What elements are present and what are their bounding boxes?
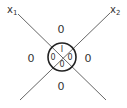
inner-region-left: 0 [50, 54, 55, 62]
outer-region-right: 0 [85, 53, 92, 64]
inner-region-top: I [61, 46, 63, 54]
x2-label-subscript: 2 [116, 9, 120, 17]
outer-region-top: 0 [58, 24, 65, 35]
outer-region-left: 0 [28, 53, 35, 64]
x1-axis-label: x1 [7, 5, 17, 17]
outer-region-bottom: 0 [58, 81, 65, 92]
inner-region-bottom: 0 [59, 61, 64, 69]
x1-label-subscript: 1 [13, 9, 17, 17]
x2-axis-label: x2 [110, 5, 120, 17]
inner-region-right: 0 [67, 54, 72, 62]
